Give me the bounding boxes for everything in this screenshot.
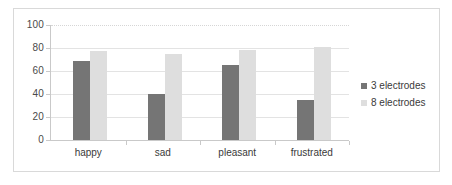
y-axis-tick-0 bbox=[46, 140, 50, 141]
plot-area bbox=[51, 25, 349, 140]
bar-frustrated-3-electrodes[interactable] bbox=[297, 100, 314, 140]
bar-sad-8-electrodes[interactable] bbox=[165, 54, 182, 140]
bar-group-sad bbox=[148, 25, 182, 140]
x-axis-tick bbox=[200, 141, 201, 145]
legend-label: 3 electrodes bbox=[371, 80, 425, 91]
bar-happy-3-electrodes[interactable] bbox=[73, 61, 90, 140]
legend-item-8-electrodes[interactable]: 8 electrodes bbox=[361, 94, 439, 111]
category-label-pleasant: pleasant bbox=[200, 147, 275, 159]
y-axis-label: 60 bbox=[14, 66, 44, 76]
bar-group-pleasant bbox=[222, 25, 256, 140]
y-axis-tick-40 bbox=[46, 94, 50, 95]
x-axis-tick bbox=[349, 141, 350, 145]
y-axis-labels: 020406080100 bbox=[14, 9, 44, 173]
bar-group-frustrated bbox=[297, 25, 331, 140]
legend-swatch-icon bbox=[361, 83, 367, 89]
x-axis-tick bbox=[126, 141, 127, 145]
x-axis-tick bbox=[275, 141, 276, 145]
legend-label: 8 electrodes bbox=[371, 97, 425, 108]
bar-happy-8-electrodes[interactable] bbox=[90, 51, 107, 140]
chart-legend: 3 electrodes8 electrodes bbox=[361, 77, 439, 111]
y-axis-tick-100 bbox=[46, 25, 50, 26]
bar-group-happy bbox=[73, 25, 107, 140]
y-axis-tick-80 bbox=[46, 48, 50, 49]
y-axis-label: 0 bbox=[14, 135, 44, 145]
bar-frustrated-8-electrodes[interactable] bbox=[314, 47, 331, 140]
bar-pleasant-3-electrodes[interactable] bbox=[222, 65, 239, 140]
bar-sad-3-electrodes[interactable] bbox=[148, 94, 165, 140]
y-axis-label: 40 bbox=[14, 89, 44, 99]
x-axis-category-labels: happysadpleasantfrustrated bbox=[51, 147, 349, 163]
y-axis-label: 80 bbox=[14, 43, 44, 53]
y-axis-tick-20 bbox=[46, 117, 50, 118]
chart-plot-wrapper: 020406080100 happysadpleasantfrustrated … bbox=[14, 9, 441, 173]
category-label-frustrated: frustrated bbox=[275, 147, 350, 159]
category-label-sad: sad bbox=[126, 147, 201, 159]
y-axis-tick-60 bbox=[46, 71, 50, 72]
chart-frame: 020406080100 happysadpleasantfrustrated … bbox=[13, 8, 440, 172]
legend-item-3-electrodes[interactable]: 3 electrodes bbox=[361, 77, 439, 94]
y-axis-label: 100 bbox=[14, 20, 44, 30]
bar-pleasant-8-electrodes[interactable] bbox=[239, 50, 256, 140]
legend-swatch-icon bbox=[361, 100, 367, 106]
y-axis-label: 20 bbox=[14, 112, 44, 122]
category-label-happy: happy bbox=[51, 147, 126, 159]
